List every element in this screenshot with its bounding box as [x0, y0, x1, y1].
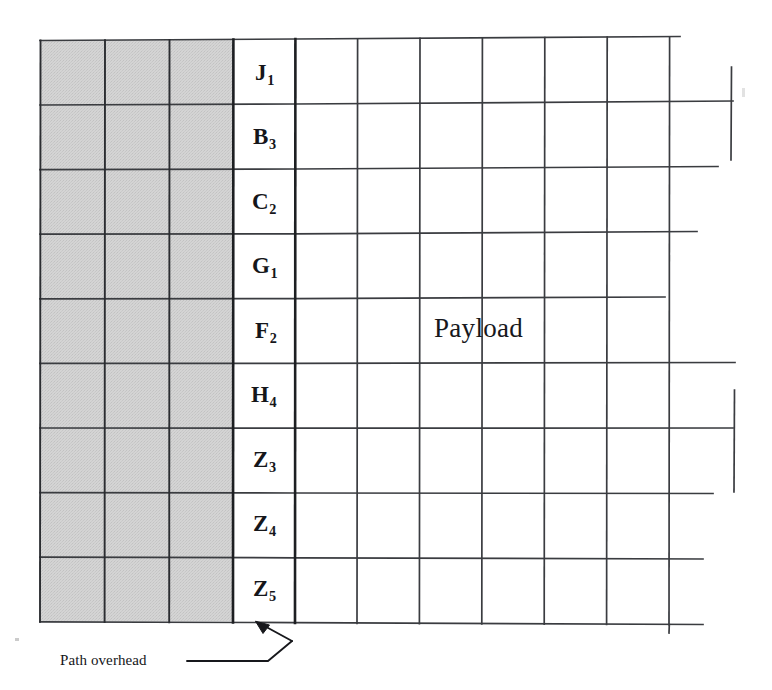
- overhead-byte-z3-letter: Z: [253, 447, 269, 472]
- overhead-byte-c2-letter: C: [252, 189, 269, 214]
- path-overhead-caption: Path overhead: [60, 652, 147, 669]
- payload-label: Payload: [434, 313, 523, 344]
- overhead-byte-b3-letter: B: [253, 124, 269, 149]
- frame-diagram-canvas: [0, 0, 772, 690]
- overhead-byte-j1-letter: J: [255, 60, 267, 85]
- overhead-byte-b3-index: 3: [269, 136, 276, 152]
- overhead-byte-g1-index: 1: [271, 265, 278, 281]
- overhead-byte-z3-index: 3: [269, 459, 276, 475]
- overhead-byte-g1: G1: [252, 254, 277, 277]
- overhead-byte-j1-index: 1: [267, 72, 274, 88]
- overhead-byte-j1: J1: [255, 61, 274, 84]
- overhead-byte-z4-index: 4: [269, 523, 276, 539]
- overhead-byte-h4-index: 4: [270, 394, 277, 410]
- overhead-byte-z3: Z3: [253, 448, 276, 471]
- overhead-byte-z4: Z4: [253, 512, 276, 535]
- path-overhead-leader: [187, 641, 292, 661]
- overhead-byte-g1-letter: G: [252, 253, 270, 278]
- overhead-byte-z4-letter: Z: [253, 511, 269, 536]
- overhead-byte-b3: B3: [253, 125, 276, 148]
- overhead-byte-z5: Z5: [253, 577, 276, 600]
- overhead-byte-z5-index: 5: [269, 588, 276, 604]
- overhead-byte-c2: C2: [252, 190, 276, 213]
- overhead-byte-h4-letter: H: [251, 382, 269, 407]
- overhead-byte-h4: H4: [251, 383, 276, 406]
- overhead-byte-c2-index: 2: [269, 201, 276, 217]
- path-overhead-arrow: [256, 621, 293, 641]
- frame-right-edge-segments: [669, 67, 735, 633]
- overhead-byte-f2-index: 2: [270, 330, 277, 346]
- overhead-byte-f2-letter: F: [255, 318, 269, 343]
- scan-artifact-speck: [742, 88, 745, 97]
- overhead-byte-f2: F2: [255, 319, 277, 342]
- scan-artifact-speck: [15, 638, 19, 641]
- section-line-overhead-shading: [40, 40, 233, 621]
- overhead-byte-z5-letter: Z: [253, 576, 269, 601]
